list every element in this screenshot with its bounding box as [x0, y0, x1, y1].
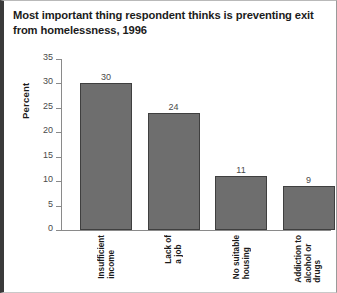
x-axis-category-label-line: Insufficient [97, 235, 107, 279]
x-axis-category-label: Lack ofa job [164, 235, 183, 264]
x-axis-category-label-line: Lack of [164, 235, 174, 264]
x-axis-category-label-line: income [106, 235, 116, 279]
y-axis-tick-label: 0 [48, 223, 53, 233]
bar: 11 [215, 176, 267, 230]
bar-value-label: 24 [149, 102, 199, 112]
y-axis-tick: 10 [56, 181, 61, 182]
x-axis-category-label-line: No suitable [232, 235, 242, 279]
y-axis-tick: 25 [56, 108, 61, 109]
bar-value-label: 11 [216, 165, 266, 175]
bar: 24 [148, 113, 200, 230]
chart-title-line-2: from homelessness, 1996 [13, 24, 147, 36]
x-axis-category-label: Addiction toalcohol ordrugs [294, 235, 323, 283]
chart-title-line-1: Most important thing respondent thinks i… [13, 9, 314, 21]
y-axis-tick: 5 [56, 206, 61, 207]
x-axis-line [61, 230, 331, 231]
y-axis-tick: 0 [56, 230, 61, 231]
y-axis-tick-label: 10 [43, 174, 53, 184]
y-axis-tick-label: 35 [43, 52, 53, 62]
x-axis-category-label: Insufficientincome [97, 235, 116, 279]
plot-area: 05101520253035 3024119 Insufficientincom… [61, 59, 331, 230]
x-axis-category-label-line: Addiction to [294, 235, 304, 283]
y-axis-tick: 20 [56, 132, 61, 133]
chart-title: Most important thing respondent thinks i… [13, 8, 328, 37]
y-axis-tick: 35 [56, 59, 61, 60]
y-axis-tick-label: 15 [43, 150, 53, 160]
bar-value-label: 9 [284, 175, 334, 185]
bar-value-label: 30 [81, 72, 131, 82]
chart-figure: Most important thing respondent thinks i… [0, 0, 337, 293]
y-axis-tick-label: 25 [43, 101, 53, 111]
y-axis-tick: 15 [56, 157, 61, 158]
y-axis-tick-label: 30 [43, 76, 53, 86]
x-axis-category-label-line: housing [241, 235, 251, 279]
x-axis-category-label-line: a job [174, 235, 184, 264]
y-axis-tick-label: 20 [43, 125, 53, 135]
x-axis-category-label-line: drugs [313, 235, 323, 283]
x-axis-category-label: No suitablehousing [232, 235, 251, 279]
x-axis-category-label-line: alcohol or [304, 235, 314, 283]
y-axis-label: Percent [20, 83, 31, 119]
bar: 30 [80, 83, 132, 230]
y-axis-tick-label: 5 [48, 199, 53, 209]
y-axis-tick: 30 [56, 83, 61, 84]
bar: 9 [283, 186, 335, 230]
y-axis-line [61, 59, 62, 231]
